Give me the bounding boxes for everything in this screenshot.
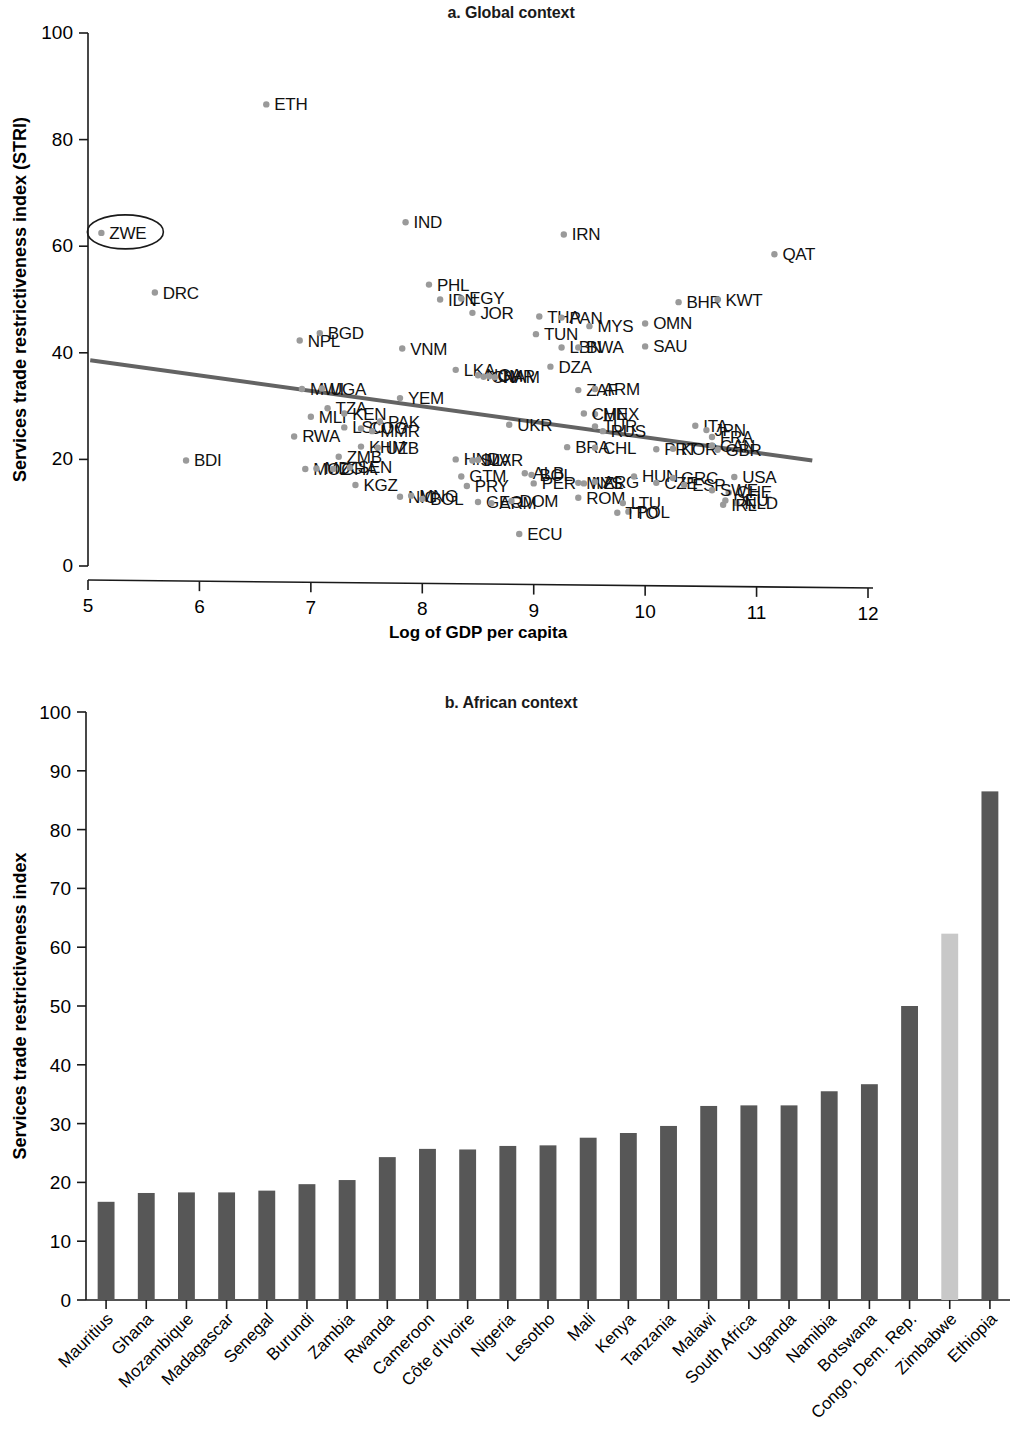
scatter-point-label: ARM	[603, 380, 640, 399]
scatter-point	[558, 344, 564, 350]
scatter-point-label: ZWE	[109, 224, 146, 243]
bar	[740, 1105, 757, 1300]
scatter-point	[561, 231, 567, 237]
bar	[138, 1193, 155, 1300]
scatter-point-label: ETH	[274, 95, 307, 114]
scatter-point	[564, 444, 570, 450]
bar	[339, 1180, 356, 1300]
scatter-point	[469, 310, 475, 316]
bar	[580, 1138, 597, 1300]
scatter-point	[492, 374, 498, 380]
scatter-point	[536, 313, 542, 319]
bar	[379, 1157, 396, 1300]
x-tick-label: 12	[857, 603, 878, 624]
scatter-point	[397, 395, 403, 401]
scatter-point	[488, 500, 494, 506]
scatter-point	[653, 480, 659, 486]
scatter-point	[486, 373, 492, 379]
scatter-point-label: BDI	[194, 451, 221, 470]
scatter-point	[703, 427, 709, 433]
bar	[861, 1084, 878, 1300]
category-label-group: Mali	[564, 1309, 599, 1344]
bar	[258, 1191, 275, 1300]
scatter-point	[369, 428, 375, 434]
scatter-point	[581, 480, 587, 486]
y-tick-label: 90	[50, 761, 71, 782]
scatter-point-label: DZA	[558, 358, 592, 377]
scatter-point	[469, 457, 475, 463]
y-tick-label: 0	[60, 1290, 71, 1311]
y-tick-label: 20	[50, 1172, 71, 1193]
scatter-point	[533, 331, 539, 337]
y-tick-label: 70	[50, 878, 71, 899]
scatter-point	[475, 457, 481, 463]
scatter-point-label: NAM	[503, 368, 540, 387]
scatter-point	[299, 386, 305, 392]
scatter-point	[453, 367, 459, 373]
y-tick-label: 80	[50, 820, 71, 841]
scatter-point-label: SAU	[653, 337, 687, 356]
panel-african-context: b. African context 010203040506070809010…	[0, 690, 1022, 1438]
bar	[540, 1145, 557, 1300]
scatter-point	[631, 473, 637, 479]
x-tick-label: 11	[747, 602, 767, 623]
category-label-group: Mauritius	[55, 1309, 117, 1371]
scatter-point	[731, 474, 737, 480]
scatter-point	[330, 466, 336, 472]
scatter-point-label: BOL	[430, 490, 463, 509]
y-tick-label: 10	[50, 1231, 71, 1252]
bar	[178, 1192, 195, 1300]
scatter-point	[475, 372, 481, 378]
bar	[419, 1149, 436, 1300]
scatter-point	[402, 219, 408, 225]
bar-chart-svg: 0102030405060708090100Services trade res…	[0, 690, 1022, 1438]
scatter-point	[319, 385, 325, 391]
bar	[821, 1091, 838, 1300]
scatter-point-label: VNM	[410, 340, 447, 359]
x-tick-label: 8	[417, 598, 428, 619]
scatter-point-label: TTO	[625, 504, 658, 523]
scatter-point-label: SEN	[358, 458, 392, 477]
scatter-point	[397, 494, 403, 500]
scatter-point	[297, 337, 303, 343]
scatter-point	[475, 499, 481, 505]
scatter-point-label: KWT	[726, 291, 763, 310]
scatter-point	[98, 230, 104, 236]
scatter-point	[453, 456, 459, 462]
scatter-point	[516, 531, 522, 537]
scatter-point	[302, 466, 308, 472]
scatter-point-label: OMN	[653, 314, 692, 333]
scatter-point-label: QAT	[782, 245, 815, 264]
y-axis-label: Services trade restrictiveness index	[10, 852, 30, 1159]
y-tick-label: 30	[50, 1114, 71, 1135]
x-tick-label: 6	[194, 596, 205, 617]
scatter-point-label: DRC	[163, 284, 199, 303]
scatter-point	[709, 442, 715, 448]
scatter-point	[399, 345, 405, 351]
scatter-point	[528, 472, 534, 478]
y-tick-label: 50	[50, 996, 71, 1017]
scatter-point-label: PAK	[388, 413, 421, 432]
scatter-point-label: IRL	[731, 496, 757, 515]
scatter-point-label: GBR	[726, 441, 762, 460]
scatter-point-label: RWA	[302, 427, 341, 446]
bar	[499, 1146, 516, 1300]
scatter-point	[581, 410, 587, 416]
scatter-point-label: BGD	[328, 324, 364, 343]
scatter-point	[709, 487, 715, 493]
bar	[901, 1006, 918, 1300]
scatter-plot-svg: 02040608010056789101112Log of GDP per ca…	[0, 0, 1022, 660]
scatter-point	[464, 483, 470, 489]
scatter-point	[709, 434, 715, 440]
scatter-point	[642, 320, 648, 326]
scatter-point	[692, 423, 698, 429]
category-label: Mali	[564, 1309, 599, 1344]
bar	[620, 1133, 637, 1300]
panel-global-context: a. Global context 0204060801005678910111…	[0, 0, 1022, 660]
bar	[459, 1149, 476, 1300]
scatter-point	[714, 296, 720, 302]
scatter-point-label: DOM	[519, 492, 558, 511]
scatter-point	[352, 482, 358, 488]
scatter-point	[575, 344, 581, 350]
bar	[98, 1202, 115, 1300]
